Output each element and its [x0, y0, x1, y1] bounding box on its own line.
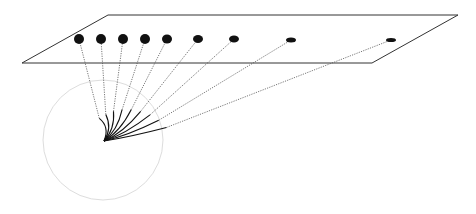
projected-point: [118, 34, 128, 44]
projected-point: [96, 34, 106, 44]
projection-ray: [150, 39, 234, 115]
projected-point: [162, 35, 172, 44]
projection-ray: [131, 39, 167, 110]
projection-rays: [79, 39, 391, 128]
projection-ray: [166, 40, 391, 128]
sphere-circle: [43, 80, 163, 200]
projection-ray: [122, 39, 145, 110]
ray-fan: [99, 110, 166, 141]
projected-point: [193, 35, 203, 43]
projected-point: [229, 36, 239, 43]
projection-ray: [141, 39, 198, 111]
projection-ray: [114, 39, 124, 111]
projected-point: [74, 34, 84, 44]
projected-point: [386, 38, 396, 42]
diagram-canvas: [0, 0, 476, 214]
projected-point: [140, 34, 150, 44]
projected-points: [74, 34, 396, 44]
projection-diagram: [0, 0, 476, 214]
sphere-outline: [43, 80, 163, 200]
projection-ray: [159, 40, 291, 120]
projected-point: [286, 38, 296, 43]
fan-ray: [99, 118, 106, 141]
projection-ray: [79, 39, 99, 118]
projection-ray: [101, 39, 106, 114]
